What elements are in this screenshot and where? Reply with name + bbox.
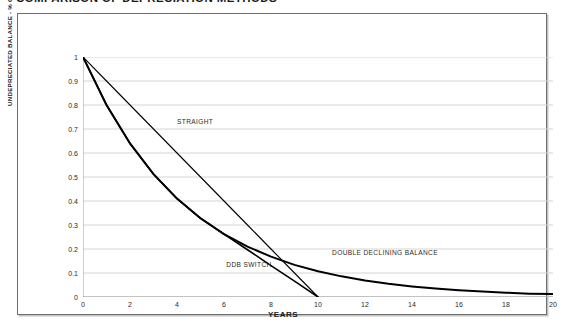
y-tick-label: 0.2 (68, 246, 78, 253)
x-tick-label: 18 (502, 301, 510, 308)
chart-title: COMPARISON OF DEPRECIATION METHODS (16, 0, 277, 4)
annotation-double-declining-balance: DOUBLE DECLINING BALANCE (332, 249, 438, 256)
chart-plot-svg (83, 57, 553, 297)
y-axis-tick-labels: 00.10.20.30.40.50.60.70.80.91 (56, 57, 78, 297)
annotation-straight: STRAIGHT (177, 118, 213, 125)
x-tick-label: 0 (81, 301, 85, 308)
x-tick-label: 20 (549, 301, 557, 308)
annotation-ddb-switch: DDB SWITCH (226, 261, 271, 268)
y-tick-label: 0.3 (68, 222, 78, 229)
x-tick-label: 12 (361, 301, 369, 308)
series-line-double-declining-balance (83, 57, 553, 294)
x-tick-label: 14 (408, 301, 416, 308)
y-tick-label: 0.6 (68, 150, 78, 157)
x-axis-title: YEARS (18, 310, 548, 319)
y-tick-label: 0.8 (68, 102, 78, 109)
plot-area: STRAIGHTDDB SWITCHDOUBLE DECLINING BALAN… (83, 57, 553, 297)
x-tick-label: 4 (175, 301, 179, 308)
chart-frame: UNDEPRECIATED BALANCE - % OF COST 00.10.… (17, 13, 547, 315)
y-tick-label: 0.9 (68, 78, 78, 85)
gridlines (83, 57, 553, 297)
x-tick-label: 10 (314, 301, 322, 308)
x-tick-label: 16 (455, 301, 463, 308)
y-axis-title: UNDEPRECIATED BALANCE - % OF COST (6, 0, 13, 106)
y-tick-label: 0.5 (68, 174, 78, 181)
y-tick-label: 1 (74, 54, 78, 61)
x-tick-label: 8 (269, 301, 273, 308)
y-tick-label: 0.7 (68, 126, 78, 133)
x-tick-label: 2 (128, 301, 132, 308)
y-tick-label: 0 (74, 294, 78, 301)
y-tick-label: 0.1 (68, 270, 78, 277)
x-tick-label: 6 (222, 301, 226, 308)
y-tick-label: 0.4 (68, 198, 78, 205)
